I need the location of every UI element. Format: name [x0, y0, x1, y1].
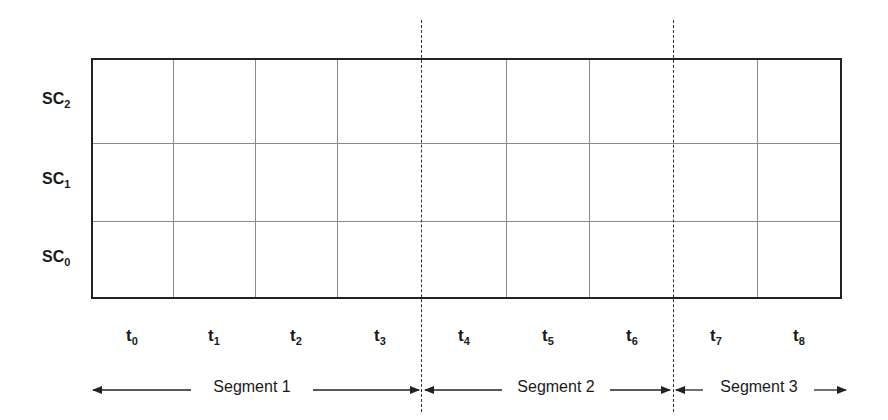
segment-1-label: Segment 1: [209, 378, 294, 396]
segment-3-label: Segment 3: [716, 378, 801, 396]
segment-arrows: [0, 0, 888, 420]
segment-labels: Segment 1 Segment 2 Segment 3: [0, 378, 888, 398]
segment-2-label: Segment 2: [513, 378, 598, 396]
